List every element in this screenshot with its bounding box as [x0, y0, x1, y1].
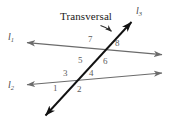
line-l1 [27, 43, 162, 55]
line-label-l3-subscript: 3 [139, 10, 142, 17]
angle-number-4: 4 [89, 69, 94, 78]
line-l2 [27, 73, 162, 85]
angle-number-8: 8 [115, 39, 120, 48]
transversal-angles-figure: Transversal l1 l2 l3 1 2 3 4 5 6 7 8 [0, 0, 169, 126]
line-label-l2: l2 [8, 80, 14, 90]
angle-number-3: 3 [63, 69, 68, 78]
transversal-caption: Transversal [60, 11, 112, 22]
angle-number-1: 1 [53, 84, 58, 93]
line-label-l3: l3 [136, 6, 142, 16]
angle-number-2: 2 [77, 85, 82, 94]
line-label-l1: l1 [8, 32, 14, 42]
transversal-callout-arrow [101, 26, 112, 32]
angle-number-5: 5 [78, 56, 83, 65]
line-label-l2-subscript: 2 [11, 84, 14, 91]
line-label-l1-subscript: 1 [11, 36, 14, 43]
angle-number-6: 6 [103, 57, 108, 66]
angle-number-7: 7 [88, 35, 93, 44]
